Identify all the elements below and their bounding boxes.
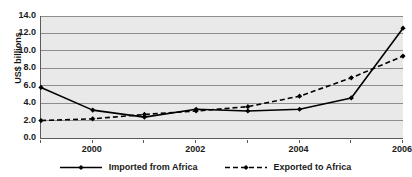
legend-swatch-icon (59, 163, 103, 172)
series-marker-2 (297, 94, 302, 99)
y-axis-tick-label: 0.0 (10, 133, 36, 142)
legend-marker-icon (243, 164, 248, 169)
series-marker-1 (90, 108, 95, 113)
y-axis-tick-label: 14.0 (10, 11, 36, 20)
y-axis-tick-label: 12.0 (10, 28, 36, 37)
series-marker-1 (38, 85, 43, 90)
series-marker-2 (400, 53, 405, 58)
chart-legend: Imported from AfricaExported to Africa (0, 159, 410, 175)
y-axis-tick-label: 10.0 (10, 46, 36, 55)
x-axis-tick-label: 2000 (82, 144, 102, 154)
series-line-1 (41, 28, 403, 117)
x-axis-tick-mark (92, 140, 93, 143)
x-axis-tick-label: 2006 (392, 144, 412, 154)
series-marker-2 (245, 104, 250, 109)
x-axis-tick-label: 2004 (289, 144, 309, 154)
x-axis-tick-mark (402, 140, 403, 143)
series-marker-1 (297, 107, 302, 112)
x-axis-tick-mark (143, 140, 144, 143)
x-axis-tick-mark (299, 140, 300, 143)
series-overlay (41, 16, 403, 138)
y-axis-tick-labels: 0.02.04.06.08.010.012.014.0 (8, 0, 36, 177)
x-axis-tick-mark (195, 140, 196, 143)
legend-label: Exported to Africa (274, 162, 352, 172)
y-axis-tick-label: 8.0 (10, 63, 36, 72)
legend-item-1[interactable]: Imported from Africa (59, 162, 198, 172)
y-axis-tick-label: 2.0 (10, 116, 36, 125)
y-axis-tick-label: 4.0 (10, 98, 36, 107)
x-axis-tick-labels: 2000200220042006 (40, 140, 402, 154)
series-marker-2 (90, 116, 95, 121)
legend-label: Imported from Africa (109, 162, 198, 172)
x-axis-tick-mark (40, 140, 41, 143)
chart-title (38, 0, 398, 1)
plot-area (40, 16, 403, 139)
legend-swatch-icon (224, 163, 268, 172)
legend-item-2[interactable]: Exported to Africa (224, 162, 352, 172)
x-axis-tick-label: 2002 (185, 144, 205, 154)
y-axis-tick-label: 6.0 (10, 81, 36, 90)
x-axis-tick-mark (247, 140, 248, 143)
x-axis-tick-mark (350, 140, 351, 143)
legend-marker-icon (78, 164, 83, 169)
series-marker-2 (38, 118, 43, 123)
series-marker-2 (349, 75, 354, 80)
